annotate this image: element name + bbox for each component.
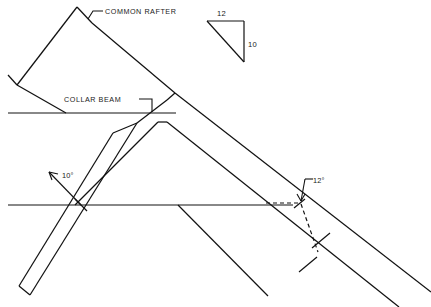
roof-framing-drawing: COMMON RAFTER COLLAR BEAM 10° 12° 12 10: [0, 0, 431, 307]
common-rafter-label: COMMON RAFTER: [105, 7, 176, 16]
drawing-background: [0, 0, 431, 307]
collar-beam-label: COLLAR BEAM: [64, 95, 121, 104]
pitch-run-label: 12: [217, 9, 226, 18]
technical-drawing-canvas: COMMON RAFTER COLLAR BEAM 10° 12° 12 10: [0, 0, 431, 307]
pitch-rise-label: 10: [248, 40, 257, 49]
angle-12-label: 12°: [313, 176, 325, 185]
angle-10-label: 10°: [62, 171, 74, 180]
